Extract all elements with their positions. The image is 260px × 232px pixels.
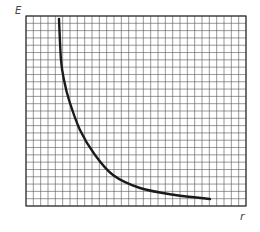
- y-axis-label: E: [15, 5, 21, 16]
- chart-plot: [0, 0, 260, 232]
- x-axis-label: r: [240, 210, 245, 223]
